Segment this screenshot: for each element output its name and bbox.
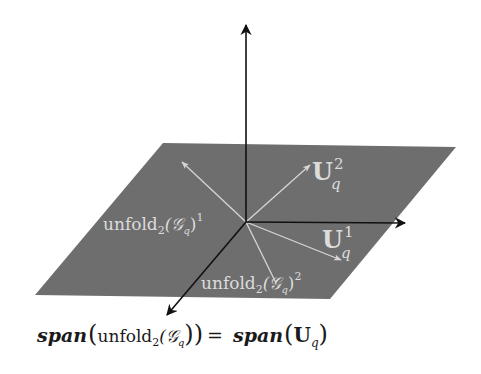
label-U-q-2-sub: q — [331, 175, 341, 193]
subspace-diagram: unfold2(𝒢q)1 U2 q U1 q unfold2(𝒢q)2 span… — [0, 0, 481, 374]
equation: span(unfold2(𝒢q))=span(Uq) — [36, 320, 328, 350]
axis-horizontal — [246, 222, 405, 223]
label-U-q-1-sub: q — [341, 244, 351, 262]
